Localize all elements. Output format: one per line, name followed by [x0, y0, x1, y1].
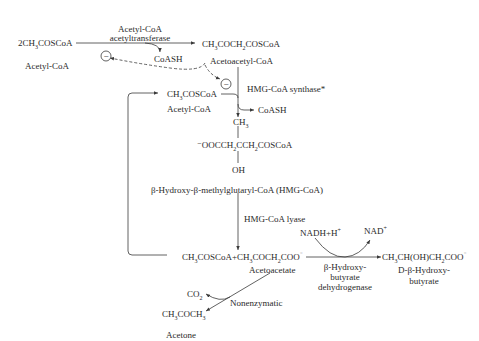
acetoacetate-name: Acetoacetate — [249, 265, 295, 275]
coash-label-1: CoASH — [154, 54, 183, 64]
thiolase-label-2: acetyltransferase — [100, 33, 180, 43]
hmg-coa-lyase-label: HMG-CoA lyase — [244, 214, 305, 224]
hydroxybutyrate-name-2: butyrate — [384, 276, 464, 286]
hydroxybutyrate-formula: CH3CH(OH)CH2COO⁻ — [382, 252, 467, 262]
co2-label: CO2 — [187, 289, 203, 299]
acetoacetyl-coa-formula: CH3COCH2COSCoA — [202, 39, 280, 49]
bhbdh-label-2: butyrate — [305, 272, 385, 282]
co2-release-arrow — [206, 294, 230, 299]
bhbdh-label-3: dehydrogenase — [305, 282, 385, 292]
hmg-coa-formula: ⁻OOCCH2CCH2COSCoA — [197, 140, 292, 150]
hmg-coa-hydroxyl: OH — [232, 165, 245, 175]
coash-release-arrow-1 — [145, 43, 160, 52]
acetyl-coa-name: Acetyl-CoA — [25, 61, 69, 71]
acetyl-coa-2-name: Acetyl-CoA — [167, 104, 211, 114]
acetyl-coa-acetoacetate-formula: CH3COSCoA+CH3COCH2COO⁻ — [182, 252, 303, 262]
acetone-name: Acetone — [166, 330, 196, 340]
hmg-coa-methyl: CH3 — [233, 117, 249, 127]
hmg-coa-name: β-Hydroxy-β-methylglutaryl-CoA (HMG-CoA) — [151, 185, 323, 195]
nadh-label: NADH+H+ — [300, 228, 341, 238]
inhibition-icon: − — [221, 79, 231, 89]
coash-label-2: CoASH — [258, 105, 287, 115]
hmg-coa-synthase-label: HMG-CoA synthase* — [247, 84, 325, 94]
hydroxybutyrate-name-1: D-β-Hydroxy- — [384, 265, 464, 275]
nad-label: NAD+ — [364, 226, 387, 236]
feedback-inhibition-synthase — [205, 65, 220, 79]
nonenzymatic-label: Nonenzymatic — [230, 298, 282, 308]
inhibition-icon: − — [101, 51, 111, 61]
coash-release-arrow-2 — [238, 104, 254, 110]
acetyl-coa-recycle-arrow — [128, 93, 167, 255]
acetoacetyl-coa-name: Acetoacetyl-CoA — [210, 56, 273, 66]
acetyl-coa-formula: 2CH3COSCoA — [18, 38, 73, 48]
bhbdh-label-1: β-Hydroxy- — [305, 262, 385, 272]
acetone-formula: CH3COCH3 — [162, 309, 206, 319]
acetyl-coa-2-formula: CH3COSCoA — [167, 89, 217, 99]
nadh-nad-curve — [315, 238, 370, 257]
